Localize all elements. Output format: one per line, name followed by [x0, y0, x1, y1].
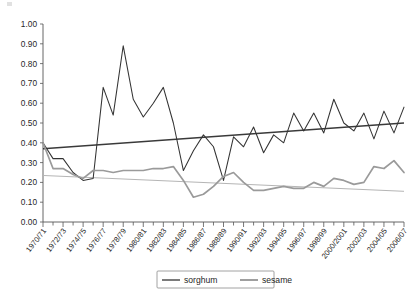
y-tick-label: 0.00: [21, 217, 38, 227]
y-tick-label: 0.80: [21, 59, 38, 69]
y-tick-label: 0.70: [21, 78, 38, 88]
y-tick-label: 1.00: [21, 19, 38, 29]
y-tick-label: 0.60: [21, 98, 38, 108]
chart-legend: sorghumsesame: [157, 271, 292, 288]
legend-label-sorghum: sorghum: [184, 275, 217, 285]
y-tick-label: 0.40: [21, 138, 38, 148]
chart-canvas: 0.000.100.200.300.400.500.600.700.800.90…: [0, 0, 420, 294]
scan-artifact: [7, 2, 12, 6]
legend-label-sesame: sesame: [262, 275, 292, 285]
y-tick-label: 0.90: [21, 39, 38, 49]
y-tick-label: 0.20: [21, 177, 38, 187]
line-chart: 0.000.100.200.300.400.500.600.700.800.90…: [0, 0, 420, 294]
y-tick-label: 0.30: [21, 158, 38, 168]
y-tick-label: 0.10: [21, 197, 38, 207]
y-tick-label: 0.50: [21, 118, 38, 128]
